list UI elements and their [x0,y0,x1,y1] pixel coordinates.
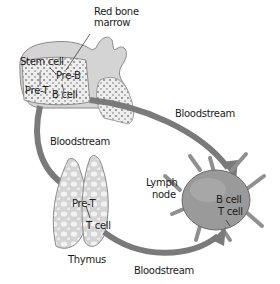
label-red-bone-marrow-1: Red bone [94,6,139,17]
label-stem-cell: Stem cell [20,56,64,67]
label-bloodstream-bottom: Bloodstream [134,265,194,276]
label-lymph-node-2: node [152,189,176,200]
lymph-node-illustration [165,154,264,240]
label-red-bone-marrow-2: marrow [94,17,130,28]
label-pre-b: Pre-B [56,70,81,81]
label-lymph-t-cell: T cell [218,206,243,217]
label-thymus: Thymus [68,254,106,265]
diagram-canvas [0,0,280,284]
label-lymph-b-cell: B cell [216,194,241,205]
label-pre-t-marrow: Pre-T [25,85,48,96]
label-bloodstream-right: Bloodstream [175,108,235,119]
label-thymus-pre-t: Pre-T [72,198,95,209]
label-bloodstream-left: Bloodstream [50,136,110,147]
bloodstream-arrow-thymus-to-lymph [104,232,218,253]
label-thymus-t-cell: T cell [86,220,111,231]
label-lymph-node-1: Lymph [146,177,178,188]
label-b-cell-marrow: B cell [52,89,77,100]
